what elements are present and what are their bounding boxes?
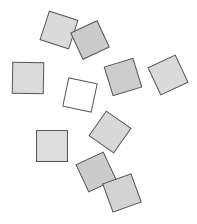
square-7 [37, 131, 68, 162]
square-4 [63, 78, 97, 112]
diagram-canvas [0, 0, 197, 224]
square-3 [12, 62, 44, 94]
